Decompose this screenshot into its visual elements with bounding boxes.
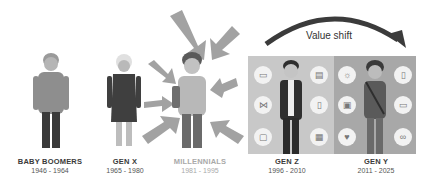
gen-years-baby-boomers: 1946 - 1964 bbox=[5, 167, 95, 174]
gen-years-gen-x: 1965 - 1980 bbox=[95, 167, 155, 174]
gen-label-gen-x: GEN X bbox=[95, 157, 155, 166]
network-icon: ⋈ bbox=[254, 96, 272, 114]
baby-boomer-figure bbox=[30, 50, 72, 150]
gen-years-gen-y: 2011 - 2025 bbox=[336, 167, 416, 174]
chart-icon: ▦ bbox=[310, 128, 328, 146]
gen-label-millennials: MILLENNIALS bbox=[160, 157, 240, 166]
gen-z-panel: ▭ ⋈ ▢ ▤ ▯ ▦ bbox=[248, 56, 334, 154]
glasses-icon: ∞ bbox=[394, 128, 412, 146]
heart-icon: ♥ bbox=[338, 128, 356, 146]
gen-years-millennials: 1981 - 1995 bbox=[160, 167, 240, 174]
gen-z-figure bbox=[274, 58, 308, 154]
gen-y-panel: ☼ ▣ ♥ ▯ ▭ ∞ bbox=[334, 56, 416, 154]
gen-label-gen-y: GEN Y bbox=[336, 157, 416, 166]
gen-label-gen-z: GEN Z bbox=[252, 157, 322, 166]
gen-label-baby-boomers: BABY BOOMERS bbox=[5, 157, 95, 166]
tablet-icon: ▭ bbox=[254, 66, 272, 84]
laptop-icon: ▤ bbox=[310, 66, 328, 84]
lightbulb-icon: ☼ bbox=[338, 66, 356, 84]
gen-y-figure bbox=[358, 58, 392, 154]
tv-icon: ▢ bbox=[254, 128, 272, 146]
mobile-icon: ▯ bbox=[394, 66, 412, 84]
video-icon: ▭ bbox=[394, 96, 412, 114]
camera-icon: ▣ bbox=[338, 96, 356, 114]
gen-x-figure bbox=[105, 52, 143, 150]
millennial-figure bbox=[140, 4, 248, 150]
value-shift-arrow-icon bbox=[262, 4, 412, 50]
phone-icon: ▯ bbox=[310, 96, 328, 114]
value-shift-label: Value shift bbox=[306, 30, 352, 41]
gen-years-gen-z: 1996 - 2010 bbox=[252, 167, 322, 174]
